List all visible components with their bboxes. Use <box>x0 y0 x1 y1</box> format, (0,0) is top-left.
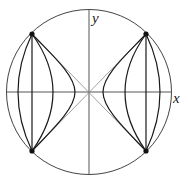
point-top-left <box>29 31 34 36</box>
point-bottom-right <box>143 148 148 153</box>
y-axis-label: y <box>90 10 99 26</box>
point-top-right <box>143 31 148 36</box>
hyperbola-family-diagram: y x <box>0 0 188 182</box>
point-bottom-left <box>29 148 34 153</box>
x-axis-label: x <box>172 90 180 106</box>
